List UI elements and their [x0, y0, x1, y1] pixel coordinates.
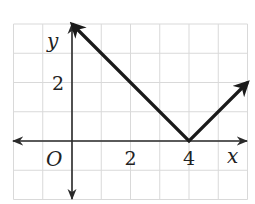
x-axis-label: x [227, 144, 238, 168]
y-axis-label: y [46, 29, 59, 53]
coordinate-graph: y x O 24 2 [0, 0, 255, 204]
origin-label: O [46, 147, 62, 171]
x-tick-label: 2 [124, 147, 136, 169]
y-tick-labels: 2 [52, 72, 64, 94]
y-tick-label: 2 [52, 72, 64, 94]
x-tick-label: 4 [183, 147, 195, 169]
